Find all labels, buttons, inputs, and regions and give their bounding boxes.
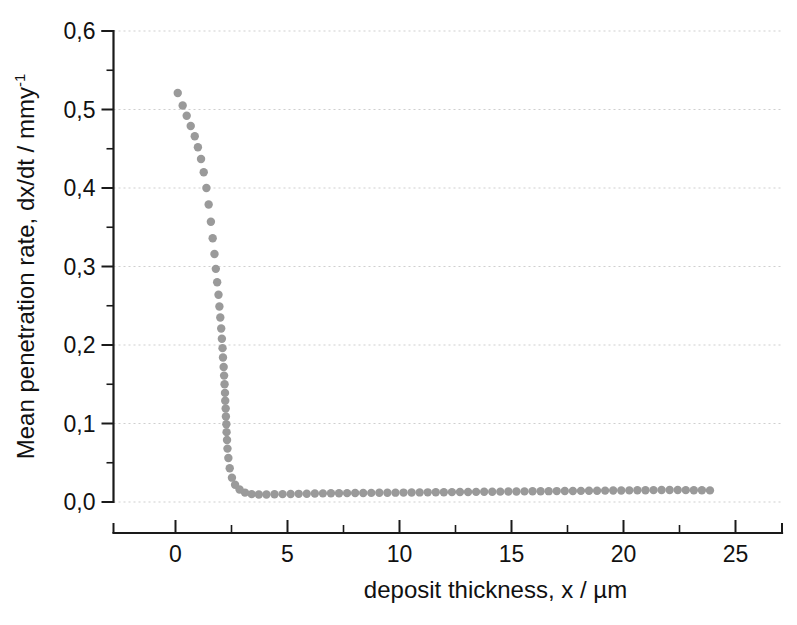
x-axis bbox=[114, 520, 783, 533]
data-point bbox=[219, 363, 227, 371]
data-point bbox=[220, 371, 228, 379]
x-tick-label: 25 bbox=[723, 541, 749, 567]
chart-plot-area: 0,00,10,20,30,40,50,6 0510152025 deposit… bbox=[0, 0, 797, 625]
y-tick-label: 0,6 bbox=[64, 18, 96, 44]
data-point bbox=[197, 155, 205, 163]
y-axis-title-main: Mean penetration rate, dx/dt / mmy bbox=[12, 87, 39, 459]
y-axis-title: Mean penetration rate, dx/dt / mmy-1 bbox=[11, 74, 39, 460]
data-point bbox=[210, 250, 218, 258]
data-point bbox=[682, 486, 690, 494]
chart-figure: 0,00,10,20,30,40,50,6 0510152025 deposit… bbox=[0, 0, 797, 625]
data-point bbox=[286, 490, 294, 498]
data-point bbox=[585, 487, 593, 495]
data-point bbox=[383, 489, 391, 497]
data-point bbox=[218, 335, 226, 343]
data-point bbox=[690, 486, 698, 494]
data-point bbox=[215, 302, 223, 310]
data-point bbox=[219, 353, 227, 361]
data-point bbox=[295, 490, 303, 498]
data-point bbox=[217, 324, 225, 332]
data-point bbox=[194, 143, 202, 151]
data-point bbox=[528, 487, 536, 495]
data-point bbox=[191, 132, 199, 140]
x-axis-title: deposit thickness, x / µm bbox=[364, 576, 627, 603]
data-point bbox=[270, 490, 278, 498]
data-point bbox=[553, 487, 561, 495]
data-point bbox=[178, 101, 186, 109]
data-series-points bbox=[174, 89, 715, 499]
data-point bbox=[220, 380, 228, 388]
data-point bbox=[665, 486, 673, 494]
axis-titles: deposit thickness, x / µmMean penetratio… bbox=[11, 74, 627, 603]
data-point bbox=[221, 389, 229, 397]
data-point bbox=[367, 489, 375, 497]
data-point bbox=[448, 488, 456, 496]
data-point bbox=[698, 486, 706, 494]
data-point bbox=[512, 487, 520, 495]
x-tick-label: 15 bbox=[499, 541, 525, 567]
y-tick-label: 0,1 bbox=[64, 411, 96, 437]
data-point bbox=[222, 412, 230, 420]
data-point bbox=[641, 486, 649, 494]
data-point bbox=[706, 486, 714, 494]
data-point bbox=[204, 200, 212, 208]
data-point bbox=[212, 265, 220, 273]
data-point bbox=[472, 488, 480, 496]
data-point bbox=[174, 89, 182, 97]
data-point bbox=[221, 404, 229, 412]
x-tick-label: 5 bbox=[281, 541, 294, 567]
data-point bbox=[359, 489, 367, 497]
x-tick-label: 0 bbox=[169, 541, 182, 567]
data-point bbox=[399, 488, 407, 496]
data-point bbox=[561, 487, 569, 495]
data-point bbox=[226, 464, 234, 472]
y-axis bbox=[102, 31, 114, 502]
data-point bbox=[183, 112, 191, 120]
data-point bbox=[335, 489, 343, 497]
data-point bbox=[375, 489, 383, 497]
data-point bbox=[617, 486, 625, 494]
data-point bbox=[609, 486, 617, 494]
y-tick-label: 0,3 bbox=[64, 254, 96, 280]
data-point bbox=[327, 489, 335, 497]
y-tick-label: 0,0 bbox=[64, 489, 96, 515]
y-tick-label: 0,2 bbox=[64, 332, 96, 358]
data-point bbox=[440, 488, 448, 496]
data-point bbox=[278, 490, 286, 498]
data-point bbox=[625, 486, 633, 494]
data-point bbox=[504, 487, 512, 495]
data-point bbox=[593, 487, 601, 495]
data-point bbox=[480, 488, 488, 496]
data-point bbox=[262, 490, 270, 498]
data-point bbox=[456, 488, 464, 496]
data-point bbox=[633, 486, 641, 494]
data-point bbox=[496, 487, 504, 495]
data-point bbox=[221, 397, 229, 405]
data-point bbox=[657, 486, 665, 494]
data-point bbox=[488, 488, 496, 496]
x-tick-label: 20 bbox=[611, 541, 637, 567]
data-point bbox=[208, 234, 216, 242]
data-point bbox=[247, 490, 255, 498]
x-tick-labels: 0510152025 bbox=[169, 541, 748, 567]
data-point bbox=[223, 444, 231, 452]
data-point bbox=[303, 489, 311, 497]
data-point bbox=[202, 184, 210, 192]
data-point bbox=[255, 490, 263, 498]
data-point bbox=[351, 489, 359, 497]
data-point bbox=[200, 168, 208, 176]
y-tick-label: 0,5 bbox=[64, 97, 96, 123]
data-point bbox=[214, 291, 222, 299]
data-point bbox=[577, 487, 585, 495]
data-point bbox=[407, 488, 415, 496]
y-tick-labels: 0,00,10,20,30,40,50,6 bbox=[64, 18, 96, 515]
data-point bbox=[601, 486, 609, 494]
data-point bbox=[207, 218, 215, 226]
data-point bbox=[649, 486, 657, 494]
data-point bbox=[674, 486, 682, 494]
data-point bbox=[216, 313, 224, 321]
data-point bbox=[520, 487, 528, 495]
data-point bbox=[222, 428, 230, 436]
data-point bbox=[218, 344, 226, 352]
data-point bbox=[319, 489, 327, 497]
